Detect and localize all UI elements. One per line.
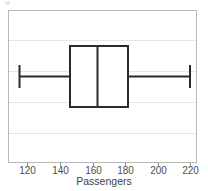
x-axis-title: Passengers	[0, 175, 208, 187]
boxplot-figure: 120 140 160 180 200 220 Passengers	[0, 0, 208, 191]
box-iqr	[70, 46, 128, 107]
plot-area	[0, 0, 208, 191]
